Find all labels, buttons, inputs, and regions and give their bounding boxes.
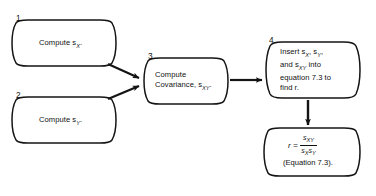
node-4-line-1-tail-2: ,: [321, 47, 323, 56]
equation-caption: (Equation 7.3).: [283, 158, 333, 167]
node-2-number: 2.: [16, 90, 23, 100]
node-2-text: Compute s: [39, 115, 76, 124]
arrow-1-to-3: [108, 64, 139, 78]
node-3-number: 3.: [148, 51, 155, 61]
node-4-line-2-text: and s: [280, 60, 299, 69]
equation-expression: r = sXY sXsY: [288, 134, 317, 158]
diagram-canvas: 1. 2. 3. 4. Compute sX. Compute sY. Comp…: [0, 0, 376, 196]
equation-fraction: sXY sXsY: [300, 134, 316, 158]
equation-equals: =: [293, 141, 298, 150]
node-4-line-3: equation 7.3 to: [280, 73, 331, 83]
node-2-tail: .: [80, 115, 82, 124]
node-1-label: Compute sX.: [39, 38, 82, 51]
node-4-line-2-tail: into: [306, 60, 321, 69]
equation-denominator-subscript-b: Y: [312, 151, 316, 157]
node-2-label: Compute sY.: [39, 115, 82, 128]
node-3-line-2: Covariance, sXY.: [155, 80, 212, 93]
node-4-number: 4.: [269, 35, 276, 45]
equation-numerator: sXY: [300, 134, 316, 145]
node-4-line-2: and sXY into: [280, 60, 331, 73]
node-3-label: Compute Covariance, sXY.: [155, 70, 212, 93]
equation-numerator-subscript: XY: [307, 137, 314, 143]
equation-denominator: sXsY: [300, 147, 316, 158]
node-3-tail: .: [210, 80, 212, 89]
equation-lhs: r: [288, 141, 291, 150]
node-4-label: Insert sX, sY, and sXY into equation 7.3…: [280, 47, 331, 92]
node-4-line-1-text: Insert s: [280, 47, 305, 56]
node-1-text: Compute s: [39, 38, 76, 47]
node-3-subscript: XY: [202, 84, 209, 90]
node-1-number: 1.: [16, 13, 23, 23]
node-4-line-4: find r.: [280, 83, 331, 93]
node-4-line-1: Insert sX, sY,: [280, 47, 331, 60]
node-4-line-1-tail: , s: [309, 47, 317, 56]
node-1-tail: .: [80, 38, 82, 47]
node-3-line-2-text: Covariance, s: [155, 80, 202, 89]
node-3-line-1: Compute: [155, 70, 212, 80]
arrow-2-to-3: [108, 86, 139, 99]
